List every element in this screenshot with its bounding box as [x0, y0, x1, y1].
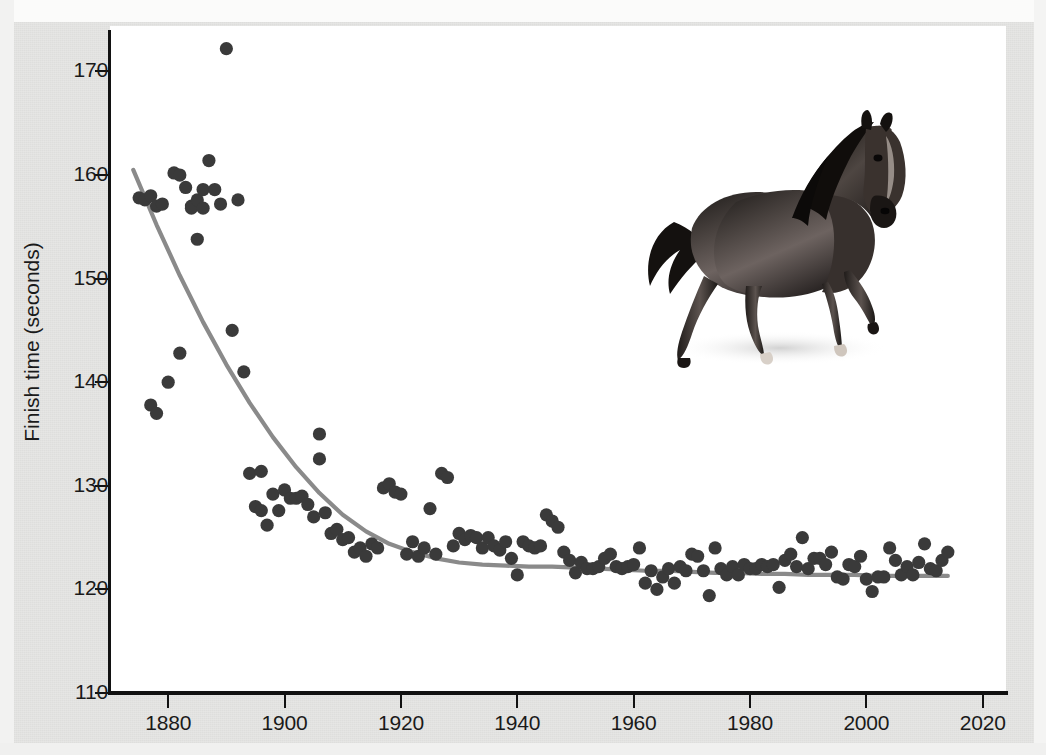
scatter-point: [534, 539, 547, 552]
scatter-point: [208, 183, 221, 196]
scatter-point: [319, 506, 332, 519]
scatter-point: [563, 554, 576, 567]
scatter-point: [179, 181, 192, 194]
scatter-point: [877, 570, 890, 583]
scatter-point: [662, 562, 675, 575]
scatter-point: [394, 488, 407, 501]
scatter-point: [237, 365, 250, 378]
scatter-point: [406, 535, 419, 548]
scatter-point: [441, 471, 454, 484]
scatter-point: [156, 197, 169, 210]
scatter-point: [260, 519, 273, 532]
scatter-point: [196, 183, 209, 196]
scatter-point: [400, 548, 413, 561]
scatter-point: [691, 550, 704, 563]
scatter-point: [668, 577, 681, 590]
scatter-point: [272, 504, 285, 517]
scatter-point: [790, 560, 803, 573]
scatter-point: [307, 510, 320, 523]
scatter-point: [150, 407, 163, 420]
scatter-point: [633, 541, 646, 554]
scatter-point: [854, 550, 867, 563]
scatter-point: [644, 564, 657, 577]
scatter-point: [301, 498, 314, 511]
scatter-point: [627, 558, 640, 571]
chart-page: 110120130140150160170 188019001920194019…: [0, 0, 1046, 755]
scatter-point: [220, 42, 233, 55]
scatter-point: [703, 589, 716, 602]
galloping-horse-illustration: [640, 110, 910, 375]
scatter-point: [191, 233, 204, 246]
scatter-point: [266, 488, 279, 501]
scatter-point: [511, 568, 524, 581]
scatter-point: [505, 552, 518, 565]
scatter-point: [889, 554, 902, 567]
scatter-point: [679, 564, 692, 577]
scatter-point: [202, 154, 215, 167]
scatter-point: [941, 546, 954, 559]
scatter-point: [423, 502, 436, 515]
scatter-point: [231, 193, 244, 206]
scatter-point: [639, 577, 652, 590]
scatter-point: [650, 583, 663, 596]
scatter-point: [371, 541, 384, 554]
scatter-point: [255, 465, 268, 478]
scatter-point: [883, 541, 896, 554]
scatter-point: [708, 541, 721, 554]
scatter-point: [551, 521, 564, 534]
scatter-point: [499, 535, 512, 548]
scatter-point: [866, 585, 879, 598]
scatter-point: [767, 558, 780, 571]
scatter-point: [162, 376, 175, 389]
scatter-point: [196, 202, 209, 215]
scatter-point: [226, 324, 239, 337]
scatter-point: [173, 347, 186, 360]
scatter-point: [906, 568, 919, 581]
scatter-point: [313, 452, 326, 465]
scatter-point: [255, 504, 268, 517]
scatter-point: [429, 548, 442, 561]
scatter-point: [243, 467, 256, 480]
scatter-point: [796, 531, 809, 544]
scatter-point: [418, 541, 431, 554]
scatter-point: [447, 539, 460, 552]
scatter-point: [214, 197, 227, 210]
scatter-point: [313, 427, 326, 440]
scatter-point: [604, 548, 617, 561]
scatter-point: [173, 168, 186, 181]
scatter-point: [819, 558, 832, 571]
scatter-point: [836, 572, 849, 585]
scatter-point: [918, 537, 931, 550]
scatter-point: [912, 556, 925, 569]
scatter-point: [825, 546, 838, 559]
scatter-point: [772, 581, 785, 594]
scatter-point: [342, 531, 355, 544]
scatter-point: [860, 572, 873, 585]
scatter-point: [697, 564, 710, 577]
scatter-point: [359, 550, 372, 563]
scatter-point: [784, 548, 797, 561]
